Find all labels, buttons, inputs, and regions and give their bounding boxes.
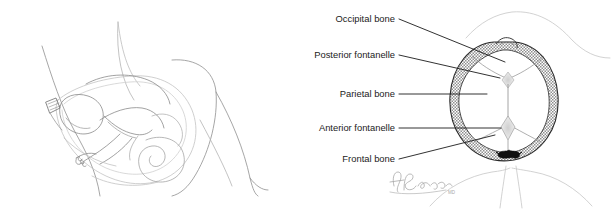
label-anterior-fontanelle: Anterior fontanelle [319, 122, 395, 133]
illustration-figure: Occipital bone Posterior fontanelle Pari… [0, 0, 612, 214]
label-frontal-bone: Frontal bone [342, 153, 395, 164]
label-posterior-fontanelle: Posterior fontanelle [314, 49, 395, 60]
label-parietal-bone: Parietal bone [340, 88, 395, 99]
label-occipital-bone: Occipital bone [336, 13, 395, 24]
illustration-canvas: Occipital bone Posterior fontanelle Pari… [0, 0, 612, 214]
signature-credential: MD [448, 190, 456, 195]
